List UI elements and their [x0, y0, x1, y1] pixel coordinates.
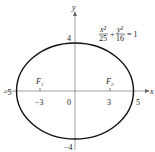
svg-text:x²: x²	[99, 25, 107, 34]
svg-text:16: 16	[116, 34, 124, 43]
x-tick-neg5: −5	[3, 88, 12, 97]
y-tick-4: 4	[67, 34, 71, 43]
x-tick-0: 0	[67, 98, 71, 107]
y-axis-label: y	[71, 3, 76, 12]
svg-text:+: +	[110, 30, 115, 39]
x-tick-5: 5	[136, 98, 140, 107]
ellipse-diagram: x y −5 −3 0 3 5 4 −4 F1 F2 x² 25 + y² 16…	[0, 0, 155, 152]
y-tick-neg4: −4	[64, 143, 73, 152]
focus2-label: F2	[105, 77, 114, 87]
svg-text:= 1: = 1	[127, 30, 138, 39]
x-tick-3: 3	[107, 98, 111, 107]
focus1-label: F1	[35, 77, 43, 87]
svg-text:y²: y²	[116, 25, 124, 34]
svg-text:25: 25	[99, 34, 107, 43]
ellipse-equation: x² 25 + y² 16 = 1	[99, 25, 138, 43]
x-tick-neg3: −3	[35, 98, 44, 107]
x-axis-label: x	[149, 87, 154, 96]
